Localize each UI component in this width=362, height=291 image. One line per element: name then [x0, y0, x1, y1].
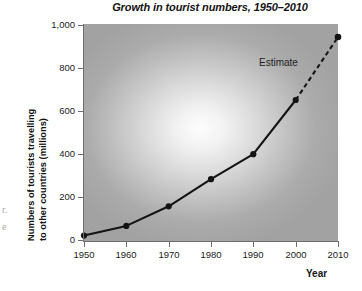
x-tick-mark-1970 — [169, 242, 170, 247]
y-tick-label-1000: 1,000 — [35, 19, 75, 30]
data-point-marker — [250, 151, 256, 157]
x-tick-label-1950: 1950 — [64, 249, 104, 260]
estimate-annotation-label: Estimate — [259, 57, 298, 68]
y-tick-mark-0 — [78, 240, 83, 241]
y-tick-label-400: 400 — [35, 148, 75, 159]
data-line-dashed-estimate — [296, 37, 338, 100]
y-axis-title-container: Numbers of tourists travelling to other … — [0, 0, 80, 241]
data-point-marker — [166, 203, 172, 209]
x-tick-mark-1950 — [84, 242, 85, 247]
data-point-marker — [81, 233, 87, 239]
data-point-marker — [335, 34, 342, 41]
y-axis-title-line-1: Numbers of tourists travelling — [26, 51, 38, 241]
y-axis-line — [83, 24, 84, 242]
y-tick-label-800: 800 — [35, 62, 75, 73]
margin-text-fragment-1: r. — [2, 204, 7, 215]
x-tick-label-2010: 2010 — [318, 249, 358, 260]
data-line-solid — [84, 100, 296, 236]
x-tick-label-1970: 1970 — [149, 249, 189, 260]
x-tick-label-1960: 1960 — [106, 249, 146, 260]
y-tick-mark-600 — [78, 111, 83, 112]
data-point-marker — [293, 97, 299, 103]
x-tick-mark-1990 — [253, 242, 254, 247]
y-tick-mark-1000 — [78, 25, 83, 26]
margin-text-fragment-2: e — [2, 221, 6, 232]
y-tick-label-200: 200 — [35, 191, 75, 202]
x-axis-title: Year — [306, 268, 327, 279]
y-tick-label-600: 600 — [35, 105, 75, 116]
chart-title: Growth in tourist numbers, 1950–2010 — [70, 1, 350, 13]
y-tick-mark-400 — [78, 154, 83, 155]
x-tick-mark-2010 — [338, 242, 339, 247]
y-tick-mark-200 — [78, 197, 83, 198]
y-tick-mark-800 — [78, 68, 83, 69]
chart-figure: Growth in tourist numbers, 1950–2010 Num… — [0, 0, 362, 291]
x-tick-label-2000: 2000 — [276, 249, 316, 260]
x-tick-label-1980: 1980 — [191, 249, 231, 260]
data-point-marker — [123, 223, 129, 229]
x-tick-mark-1960 — [126, 242, 127, 247]
x-tick-mark-2000 — [296, 242, 297, 247]
plot-area — [84, 24, 338, 241]
y-axis-title-line-2: to other countries (millions) — [38, 51, 50, 241]
data-line-chart — [84, 24, 338, 241]
x-tick-mark-1980 — [211, 242, 212, 247]
y-axis-title: Numbers of tourists travelling to other … — [26, 51, 72, 241]
x-tick-label-1990: 1990 — [233, 249, 273, 260]
data-point-marker — [208, 176, 214, 182]
y-tick-label-0: 0 — [35, 234, 75, 245]
